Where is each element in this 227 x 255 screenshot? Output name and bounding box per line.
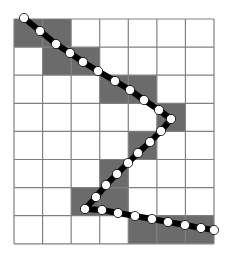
path-point [156, 126, 165, 135]
path-point [163, 217, 172, 226]
path-point [154, 105, 163, 114]
path-point [65, 48, 74, 57]
path-point [101, 180, 110, 189]
path-point [80, 204, 89, 213]
path-point [166, 114, 175, 123]
path-point [91, 192, 100, 201]
path-point [112, 169, 121, 178]
grid-path-diagram [0, 0, 227, 255]
path-point [125, 85, 134, 94]
path-point [209, 225, 218, 234]
path-point [110, 76, 119, 85]
path-point [130, 211, 139, 220]
path-point [196, 223, 205, 232]
path-point [123, 158, 132, 167]
path-point [139, 95, 148, 104]
path-point [35, 26, 44, 35]
path-point [78, 57, 87, 66]
path-point [93, 66, 102, 75]
path-point [147, 214, 156, 223]
path-point [145, 137, 154, 146]
path-point [51, 39, 60, 48]
path-point [19, 13, 28, 22]
path-point [113, 208, 122, 217]
path-point [97, 205, 106, 214]
path-point [180, 220, 189, 229]
path-point [133, 148, 142, 157]
